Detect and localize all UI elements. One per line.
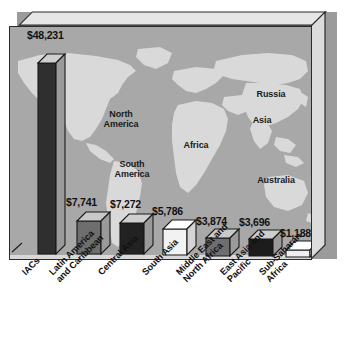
bar-iacs[interactable]: [34, 41, 70, 256]
value-label-latin-america-and-caribbean: $7,741: [66, 196, 97, 208]
frame-right-face: [310, 11, 338, 261]
value-label-south-asia: $5,786: [152, 205, 183, 217]
chart-container: North America South America Africa Russi…: [0, 0, 347, 350]
value-label-central-asia: $7,272: [110, 198, 141, 210]
frame-top-face: [9, 11, 337, 26]
value-label-east-asia-and-pacific: $3,696: [239, 216, 270, 228]
value-label-iacs: $48,231: [27, 29, 64, 41]
